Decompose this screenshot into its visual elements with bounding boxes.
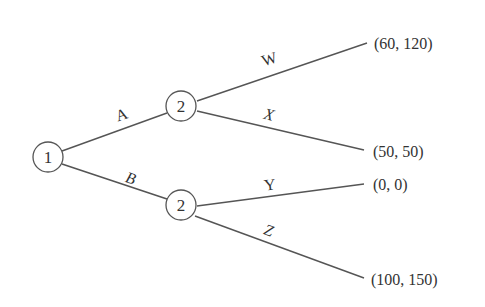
edge-label-z: Z	[262, 220, 277, 239]
edge-y	[197, 184, 364, 206]
edge-label-b: B	[124, 169, 139, 188]
payoff-z: (100, 150)	[371, 271, 438, 289]
game-tree-diagram: 1 2 2 A B W X Y Z (60, 120) (50, 50) (0,…	[0, 0, 485, 307]
svg-text:2: 2	[177, 196, 186, 215]
edge-label-y: Y	[263, 175, 277, 193]
edge-x	[197, 111, 364, 150]
payoff-w: (60, 120)	[374, 35, 433, 53]
edge-a	[62, 113, 167, 151]
edge-z	[195, 216, 364, 278]
edge-label-a: A	[114, 105, 131, 125]
payoff-x: (50, 50)	[373, 143, 424, 161]
svg-text:1: 1	[44, 148, 53, 167]
payoff-y: (0, 0)	[373, 176, 408, 194]
node-player-2-top: 2	[166, 91, 196, 121]
edge-w	[197, 43, 367, 101]
node-player-1: 1	[33, 142, 63, 172]
edge-label-x: X	[261, 105, 277, 124]
edge-b	[62, 164, 167, 199]
svg-text:2: 2	[177, 97, 186, 116]
edge-label-w: W	[260, 48, 280, 69]
node-player-2-bottom: 2	[166, 190, 196, 220]
